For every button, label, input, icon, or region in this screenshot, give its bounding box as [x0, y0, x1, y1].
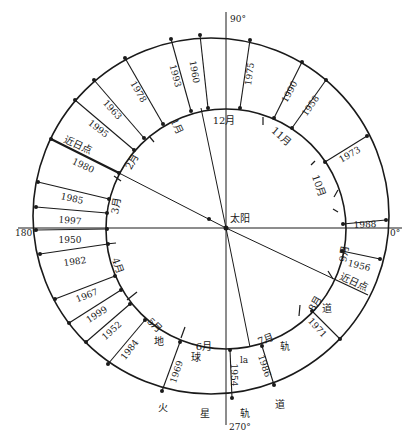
year-label-1978: 1978 [128, 79, 148, 104]
lower-line [226, 228, 250, 347]
mars-position-dot [36, 180, 40, 184]
year-label-1969: 1969 [168, 359, 185, 384]
mars-position-dot [378, 257, 382, 261]
mars-position-dot [84, 340, 88, 344]
month-tick [127, 292, 137, 300]
year-label-1958: 1958 [300, 93, 321, 118]
month-tick [181, 327, 185, 338]
month-tick [149, 136, 154, 142]
year-label-1960: 1960 [188, 60, 202, 85]
mars-position-dot [38, 252, 42, 256]
earth-position-dot [142, 136, 146, 140]
earth-position-dot [178, 340, 182, 344]
year-label-1967: 1967 [74, 287, 99, 305]
mars-orbit-label-char: 星 [200, 408, 210, 419]
mars-position-dot [169, 37, 173, 41]
earth-position-dot [272, 116, 276, 120]
sun-icon [224, 226, 229, 231]
mars-position-dot [73, 98, 77, 102]
month-tick [333, 209, 338, 212]
mars-position-dot [384, 218, 388, 222]
mars-position-dot [198, 33, 202, 37]
mars-position-dot [67, 321, 71, 325]
year-label-1993: 1993 [168, 64, 184, 89]
year-label-1971: 1971 [306, 316, 329, 340]
mars-position-dot [160, 389, 164, 393]
mars-position-dot [34, 228, 38, 232]
mars-position-dot [248, 38, 252, 42]
year-label-1956: 1956 [347, 258, 372, 273]
year-label-1985: 1985 [60, 191, 85, 206]
earth-position-dot [117, 171, 121, 175]
mars-position-dot [34, 205, 38, 209]
earth-orbit-label-char: 轨 [280, 340, 290, 352]
year-label-1988: 1988 [353, 219, 377, 230]
mars-position-dot [106, 362, 110, 366]
month-label: 3月 [109, 197, 123, 215]
earth-position-dot [290, 126, 294, 130]
perihelion-line [226, 228, 334, 279]
axis-label: 0° [390, 228, 400, 238]
year-label-1975: 1975 [243, 62, 256, 86]
mars-position-dot [324, 78, 328, 82]
earth-orbit-label-char: 道 [322, 302, 332, 314]
mars-position-dot [123, 56, 127, 60]
earth-position-dot [323, 160, 327, 164]
mars-position-dot [365, 134, 369, 138]
marker-label: la [240, 355, 249, 365]
mars-orbit-label-char: 轨 [240, 407, 250, 419]
earth-position-dot [228, 348, 232, 352]
month-label: 4月 [110, 256, 126, 275]
month-tick [334, 190, 338, 197]
earth-position-dot [119, 288, 123, 292]
mars-orbit-label-char: 火 [158, 402, 168, 413]
month-label: 1月 [168, 117, 185, 136]
opposition-line-1960 [200, 35, 208, 108]
opposition-line-1982 [40, 244, 108, 254]
mars-position-dot [53, 297, 57, 301]
earth-position-dot [132, 148, 136, 152]
year-label-1982: 1982 [63, 255, 87, 268]
mars-position-dot [300, 60, 304, 64]
upper-line [201, 108, 226, 228]
month-label: 10月 [310, 173, 328, 198]
earth-position-dot [189, 109, 193, 113]
year-label-1997: 1997 [58, 215, 82, 227]
mars-center-dot [207, 217, 211, 221]
earth-position-dot [161, 122, 165, 126]
month-label: 5月 [145, 316, 164, 335]
mars-earth-orbit-diagram: 90°270°180°0° 19601993197819631995198019… [0, 0, 420, 437]
year-label-1984: 1984 [119, 337, 141, 361]
month-label: 2月 [123, 152, 141, 172]
month-label: 7月 [256, 331, 275, 347]
month-label: 12月 [213, 115, 236, 126]
mars-position-dot [230, 396, 234, 400]
year-label-1973: 1973 [337, 144, 362, 164]
mars-position-dot [272, 383, 276, 387]
year-label-1963: 1963 [101, 98, 124, 122]
sun-label: 太阳 [230, 212, 250, 224]
year-label-1950: 1950 [59, 235, 82, 245]
earth-position-dot [128, 302, 132, 306]
perihelion-label: 近日点 [339, 270, 371, 294]
year-label-1990: 1990 [280, 79, 300, 104]
earth-position-dot [206, 106, 210, 110]
earth-position-dot [105, 227, 109, 231]
month-tick [311, 161, 315, 165]
mars-position-dot [49, 137, 53, 141]
mars-position-dot [92, 78, 96, 82]
opposition-line-1997 [36, 207, 107, 213]
mars-orbit-label-char: 道 [275, 398, 285, 410]
axis-label: 90° [230, 14, 246, 24]
opposition-line-1950 [36, 229, 107, 230]
year-label-1999: 1999 [84, 304, 109, 325]
year-label-1986: 1986 [256, 353, 273, 378]
year-label-1952: 1952 [100, 319, 124, 342]
earth-position-dot [238, 106, 242, 110]
mars-position-dot [338, 337, 342, 341]
earth-position-dot [341, 222, 345, 226]
month-tick [299, 305, 300, 316]
earth-orbit-label-char: 地 [154, 335, 164, 347]
year-label-1995: 1995 [86, 118, 110, 140]
earth-orbit-label-char: 球 [191, 351, 201, 363]
